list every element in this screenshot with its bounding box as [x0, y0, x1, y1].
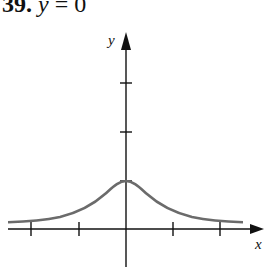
- y-axis-arrow-icon: [121, 32, 131, 50]
- x-axis-label: x: [254, 236, 262, 252]
- y-axis-label: y: [106, 32, 115, 48]
- x-axis-arrow-icon: [250, 224, 264, 234]
- graph: y x: [0, 0, 264, 267]
